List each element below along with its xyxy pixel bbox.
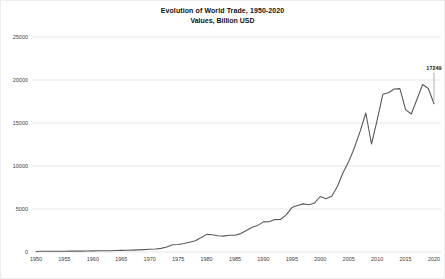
x-tick-label-2005: 2005 (343, 256, 355, 262)
y-tick-label-0: 0 (25, 249, 28, 255)
x-tick-label-1985: 1985 (229, 256, 241, 262)
x-tick-label-1965: 1965 (115, 256, 127, 262)
x-tick-label-2000: 2000 (314, 256, 326, 262)
y-tick-label-15000: 15000 (13, 120, 28, 126)
world-trade-chart-window: Evolution of World Trade, 1950-2020 Valu… (0, 0, 445, 279)
world-trade-line-series (36, 85, 434, 252)
x-tick-label-2015: 2015 (399, 256, 411, 262)
data-label-2020: 17249 (426, 65, 441, 71)
x-tick-label-1990: 1990 (257, 256, 269, 262)
y-tick-label-5000: 5000 (16, 206, 28, 212)
x-tick-label-1980: 1980 (200, 256, 212, 262)
x-tick-label-1960: 1960 (87, 256, 99, 262)
y-tick-label-25000: 25000 (13, 34, 28, 40)
x-tick-label-1950: 1950 (30, 256, 42, 262)
y-tick-label-10000: 10000 (13, 163, 28, 169)
x-tick-label-2010: 2010 (371, 256, 383, 262)
x-tick-label-1975: 1975 (172, 256, 184, 262)
line-chart-plot-area: 0500010000150002000025000195019551960196… (0, 0, 445, 279)
x-tick-label-2020: 2020 (428, 256, 440, 262)
x-tick-label-1970: 1970 (144, 256, 156, 262)
x-tick-label-1995: 1995 (286, 256, 298, 262)
x-tick-label-1955: 1955 (58, 256, 70, 262)
y-tick-label-20000: 20000 (13, 77, 28, 83)
